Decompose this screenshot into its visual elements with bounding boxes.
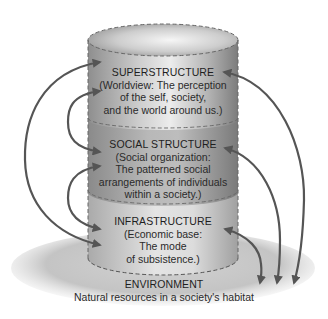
layer-social-structure: SOCIAL STRUCTURE (Social organization: T… bbox=[88, 138, 238, 201]
environment-title: ENVIRONMENT bbox=[0, 278, 328, 291]
layer-description-line: arrangements of individuals bbox=[88, 176, 238, 189]
layer-description-line: (Economic base: bbox=[88, 228, 238, 241]
layer-description-line: within a society.) bbox=[88, 188, 238, 201]
environment-label: ENVIRONMENT Natural resources in a socie… bbox=[0, 278, 328, 303]
layer-description-line: of subsistence.) bbox=[88, 253, 238, 266]
environment-subtitle: Natural resources in a society's habitat bbox=[0, 291, 328, 304]
layer-title: SOCIAL STRUCTURE bbox=[88, 138, 238, 151]
layer-title: SUPERSTRUCTURE bbox=[88, 66, 238, 79]
layer-description-line: The patterned social bbox=[88, 163, 238, 176]
layer-title: INFRASTRUCTURE bbox=[88, 215, 238, 228]
layer-description-line: of the self, society, bbox=[88, 91, 238, 104]
layer-description-line: The mode bbox=[88, 240, 238, 253]
layer-superstructure: SUPERSTRUCTURE (Worldview: The perceptio… bbox=[88, 66, 238, 116]
layer-description-line: and the world around us.) bbox=[88, 104, 238, 117]
layer-description-line: (Social organization: bbox=[88, 151, 238, 164]
layer-description-line: (Worldview: The perception bbox=[88, 79, 238, 92]
layer-infrastructure: INFRASTRUCTURE (Economic base: The mode … bbox=[88, 215, 238, 265]
